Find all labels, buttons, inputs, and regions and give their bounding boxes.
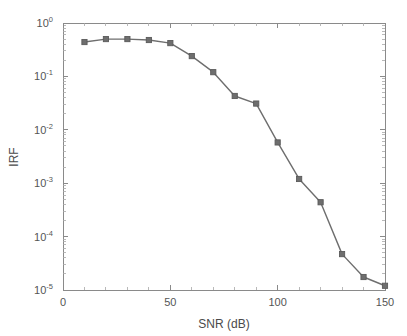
- data-point-marker: [82, 39, 87, 44]
- data-point-marker: [361, 274, 366, 279]
- x-axis-tick-labels: 050100150: [60, 296, 394, 308]
- data-point-marker: [339, 252, 344, 257]
- y-tick-label: 100: [37, 15, 53, 29]
- plot-frame: [63, 23, 385, 290]
- y-axis-ticks: [63, 23, 385, 290]
- irf-vs-snr-line-chart: 10010-110-210-310-410-5 050100150 SNR (d…: [0, 0, 407, 336]
- data-point-marker: [103, 36, 108, 41]
- data-line-irf: [84, 39, 385, 286]
- y-axis-tick-labels: 10010-110-210-310-410-5: [34, 15, 53, 296]
- data-point-marker: [275, 140, 280, 145]
- data-point-marker: [232, 93, 237, 98]
- x-axis-ticks: [63, 23, 385, 290]
- data-point-marker: [125, 36, 130, 41]
- y-axis-label: IRF: [7, 147, 21, 166]
- data-point-marker: [146, 37, 151, 42]
- y-tick-label: 10-4: [34, 229, 53, 243]
- data-markers-irf: [82, 36, 388, 288]
- y-tick-label: 10-5: [34, 282, 53, 296]
- data-point-marker: [254, 101, 259, 106]
- data-point-marker: [297, 176, 302, 181]
- data-point-marker: [211, 70, 216, 75]
- chart-figure: 10010-110-210-310-410-5 050100150 SNR (d…: [0, 0, 407, 336]
- data-point-marker: [382, 283, 387, 288]
- data-point-marker: [318, 200, 323, 205]
- y-tick-label: 10-1: [34, 68, 53, 82]
- data-point-marker: [189, 53, 194, 58]
- x-tick-label: 100: [268, 296, 286, 308]
- y-tick-label: 10-3: [34, 175, 53, 189]
- x-tick-label: 150: [376, 296, 394, 308]
- x-axis-label: SNR (dB): [198, 317, 249, 331]
- x-tick-label: 50: [164, 296, 176, 308]
- y-tick-label: 10-2: [34, 122, 53, 136]
- x-tick-label: 0: [60, 296, 66, 308]
- data-point-marker: [168, 41, 173, 46]
